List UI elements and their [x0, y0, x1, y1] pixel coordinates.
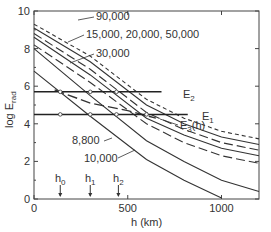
curve-10000: [34, 49, 259, 192]
arrowhead: [58, 193, 62, 197]
intersection-marker: [88, 90, 92, 94]
y-tick-label: 0: [24, 193, 30, 205]
arrowhead: [88, 193, 92, 197]
intersection-marker: [88, 113, 92, 117]
label-e2: E2: [183, 88, 195, 103]
y-tick-label: 4: [24, 118, 30, 130]
curve-50000: [34, 28, 259, 145]
height-markers: h0h1h2: [55, 172, 124, 197]
intersection-marker: [115, 113, 119, 117]
marker-label-h2: h2: [113, 172, 124, 187]
marker-label-h0: h0: [55, 172, 66, 187]
curve-30000: [34, 45, 259, 163]
arrowhead: [116, 193, 120, 197]
label-15000-20000-50000: 15,000, 20,000, 50,000: [86, 28, 199, 40]
intersection-marker: [58, 90, 62, 94]
y-tick-label: 8: [24, 43, 30, 55]
leader-90000: [78, 17, 94, 20]
curve-90000: [34, 24, 259, 139]
x-tick-label: 1000: [209, 202, 233, 214]
curves: [34, 24, 259, 198]
label-90000: 90,000: [96, 10, 130, 22]
label-8800: 8,800: [72, 134, 100, 146]
leader-10000: [118, 150, 135, 158]
chart: 024681005001000 h0h1h2 90,000 15,000, 20…: [0, 0, 271, 232]
intersection-marker: [115, 90, 119, 94]
x-axis-label: h (km): [131, 216, 162, 228]
intersection-marker: [58, 113, 62, 117]
label-30000: 30,000: [96, 47, 130, 59]
y-tick-label: 2: [24, 155, 30, 167]
y-tick-label: 10: [18, 5, 30, 17]
leader-15000: [68, 35, 84, 42]
leader-8800: [104, 138, 112, 141]
y-tick-label: 6: [24, 80, 30, 92]
marker-label-h1: h1: [85, 172, 96, 187]
x-tick-label: 500: [119, 202, 137, 214]
y-axis-label: log Erad: [3, 91, 18, 128]
x-tick-label: 0: [31, 202, 37, 214]
label-e3: E3(h): [180, 119, 205, 134]
label-10000: 10,000: [84, 152, 118, 164]
intersection-marker: [145, 113, 149, 117]
